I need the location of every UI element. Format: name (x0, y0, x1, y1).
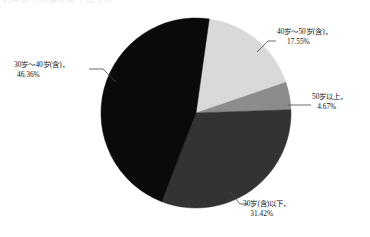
pie-label-30-less-name: 30岁(含)以下， (243, 199, 290, 209)
pie-label-40-50-name: 40岁～50岁(含)， (277, 27, 332, 37)
pie-label-30-less: 30岁(含)以下， 31.42% (243, 199, 290, 219)
pie-label-30-40-value: 46.36% (14, 70, 69, 80)
pie-label-30-less-value: 31.42% (243, 209, 290, 219)
chart-page: 的年龄分布情况如下图所示 40岁～50岁(含)， 17.55% 50岁以上， 4… (0, 0, 370, 237)
pie-label-50-up-value: 4.67% (312, 102, 347, 112)
pie-label-40-50: 40岁～50岁(含)， 17.55% (277, 27, 332, 47)
pie-label-30-40-name: 30岁～40岁(含)， (14, 60, 69, 70)
pie-label-50-up: 50岁以上， 4.67% (312, 92, 347, 112)
pie-label-50-up-name: 50岁以上， (312, 92, 347, 102)
pie-label-40-50-value: 17.55% (277, 37, 332, 47)
pie-label-30-40: 30岁～40岁(含)， 46.36% (14, 60, 69, 80)
